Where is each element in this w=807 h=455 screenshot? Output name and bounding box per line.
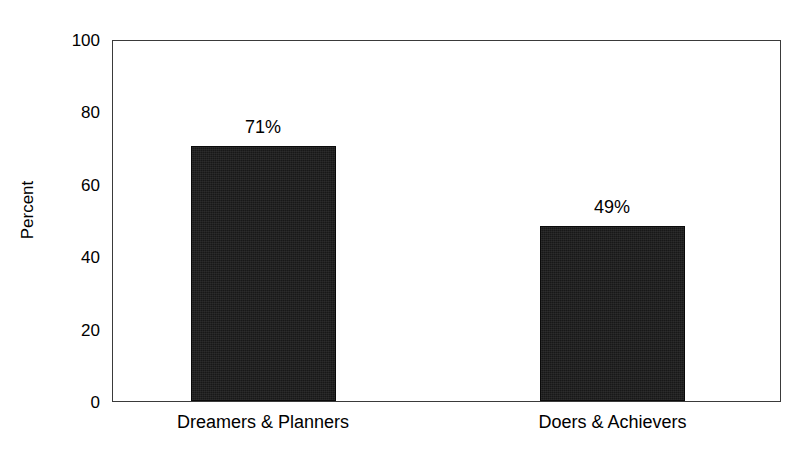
x-tick-label-doers-achievers: Doers & Achievers	[495, 412, 730, 432]
y-tick-label-0: 0	[40, 394, 100, 411]
bar-chart-figure: Percent 100 80 60 40 20 0 71% 49% Dreame…	[0, 0, 807, 455]
y-tick-label-40: 40	[40, 249, 100, 266]
bar-value-dreamers-planners: 71%	[203, 118, 323, 136]
y-tick-label-80: 80	[40, 104, 100, 121]
bar-value-doers-achievers: 49%	[552, 198, 672, 216]
y-tick-label-100: 100	[40, 32, 100, 49]
y-tick-label-60: 60	[40, 177, 100, 194]
bar-doers-achievers	[540, 226, 685, 401]
y-axis-label: Percent	[18, 160, 38, 260]
y-tick-label-20: 20	[40, 322, 100, 339]
x-tick-label-dreamers-planners: Dreamers & Planners	[143, 412, 383, 432]
bar-dreamers-planners	[191, 146, 336, 401]
